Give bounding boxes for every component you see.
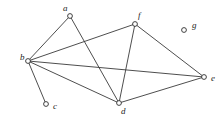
vertex-label-b: b	[20, 52, 25, 62]
graph-edge-d-f	[119, 24, 135, 103]
graph-vertex-b	[26, 59, 31, 64]
graph-vertex-c	[44, 102, 49, 107]
graph-vertex-a	[68, 14, 73, 19]
vertex-label-c: c	[53, 101, 57, 111]
graph-canvas: abcdefg	[0, 0, 222, 121]
graph-vertex-g	[182, 28, 187, 33]
edge-layer	[28, 16, 204, 104]
vertex-label-e: e	[211, 73, 215, 83]
graph-vertex-e	[202, 75, 207, 80]
vertex-label-a: a	[63, 3, 68, 13]
vertex-label-d: d	[121, 106, 126, 116]
graph-edge-b-f	[28, 24, 135, 61]
label-layer: abcdefg	[20, 3, 215, 116]
vertex-layer	[26, 14, 207, 107]
graph-edge-d-e	[119, 77, 204, 103]
graph-vertex-f	[133, 22, 138, 27]
vertex-label-f: f	[138, 10, 142, 20]
graph-edge-e-f	[135, 24, 204, 77]
graph-edge-a-d	[70, 16, 119, 103]
graph-edge-a-b	[28, 16, 70, 61]
graph-edge-b-d	[28, 61, 119, 103]
graph-edge-b-e	[28, 61, 204, 77]
graph-edge-b-c	[28, 61, 46, 104]
graph-vertex-d	[117, 101, 122, 106]
vertex-label-g: g	[192, 20, 197, 30]
graph-diagram: abcdefg	[0, 0, 222, 121]
